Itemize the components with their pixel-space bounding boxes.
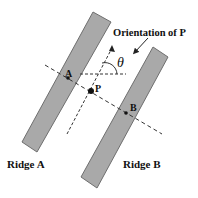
ridge-a-shape <box>22 12 111 152</box>
ridge-orientation-diagram: Orientation of P θ A P B Ridge A Ridge B <box>0 0 198 198</box>
point-b-label: B <box>130 102 137 113</box>
orientation-label-arrow <box>135 38 148 52</box>
point-p-label: P <box>95 83 101 94</box>
point-a-label: A <box>65 68 73 79</box>
ridge-b-label: Ridge B <box>123 158 161 170</box>
point-p-dot <box>88 88 94 94</box>
theta-label: θ <box>117 55 124 70</box>
ridge-a-label: Ridge A <box>7 158 45 170</box>
point-b-dot <box>124 111 128 115</box>
theta-arc <box>102 63 117 74</box>
diagram-svg: Orientation of P θ A P B Ridge A Ridge B <box>0 0 198 198</box>
orientation-arrowhead-icon <box>109 45 115 52</box>
orientation-label: Orientation of P <box>113 27 186 38</box>
